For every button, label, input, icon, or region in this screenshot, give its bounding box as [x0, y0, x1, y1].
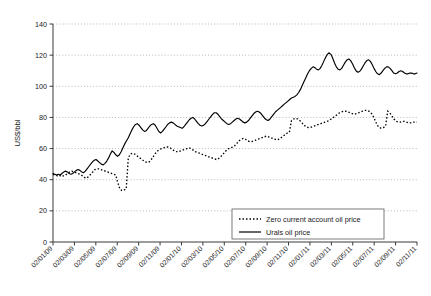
x-tick-label-2: 02/05/09: [73, 245, 97, 269]
legend-label-1: Urals oil price: [266, 228, 310, 237]
x-tick-label-0: 02/01/09: [30, 245, 54, 269]
x-tick-label-9: 02/07/10: [222, 245, 246, 269]
y-tick-label-140: 140: [35, 20, 47, 29]
x-tick-label-17: 02/11/11: [395, 245, 418, 268]
x-tick-label-13: 02/03/11: [309, 245, 333, 269]
chart-canvas: 020406080100120140US$/bbl02/01/0902/03/0…: [0, 0, 431, 296]
chart-legend: Zero current account oil priceUrals oil …: [232, 209, 384, 239]
series-line-zero-current-account: [53, 110, 417, 190]
y-tick-label-0: 0: [43, 238, 47, 247]
y-tick-label-20: 20: [39, 206, 47, 215]
y-tick-label-80: 80: [39, 113, 47, 122]
x-tick-label-7: 02/03/10: [180, 245, 204, 269]
x-tick-label-4: 02/09/09: [115, 245, 139, 269]
x-tick-label-14: 02/05/11: [330, 245, 354, 269]
y-tick-label-120: 120: [35, 51, 47, 60]
y-tick-label-60: 60: [39, 144, 47, 153]
x-tick-label-6: 02/01/10: [158, 245, 182, 269]
oil-price-line-chart: 020406080100120140US$/bbl02/01/0902/03/0…: [0, 0, 431, 296]
x-tick-label-10: 02/09/10: [244, 245, 268, 269]
y-axis: 020406080100120140US$/bbl: [13, 20, 53, 247]
y-axis-title: US$/bbl: [13, 119, 22, 146]
legend-label-0: Zero current account oil price: [266, 215, 361, 224]
gridlines: [53, 24, 417, 211]
x-tick-label-8: 02/05/10: [201, 245, 225, 269]
x-tick-label-16: 02/09/11: [373, 245, 397, 269]
x-tick-label-3: 02/07/09: [94, 245, 118, 269]
y-tick-label-100: 100: [35, 82, 47, 91]
x-axis: 02/01/0902/03/0902/05/0902/07/0902/09/09…: [30, 242, 418, 269]
x-tick-label-11: 02/11/10: [266, 245, 290, 269]
x-tick-label-15: 02/07/11: [351, 245, 375, 269]
x-tick-label-5: 02/11/09: [137, 245, 161, 269]
series-line-urals: [53, 53, 417, 175]
x-tick-label-12: 02/01/11: [287, 245, 311, 269]
y-tick-label-40: 40: [39, 175, 47, 184]
series-group: [53, 53, 417, 191]
x-tick-label-1: 02/03/09: [51, 245, 75, 269]
